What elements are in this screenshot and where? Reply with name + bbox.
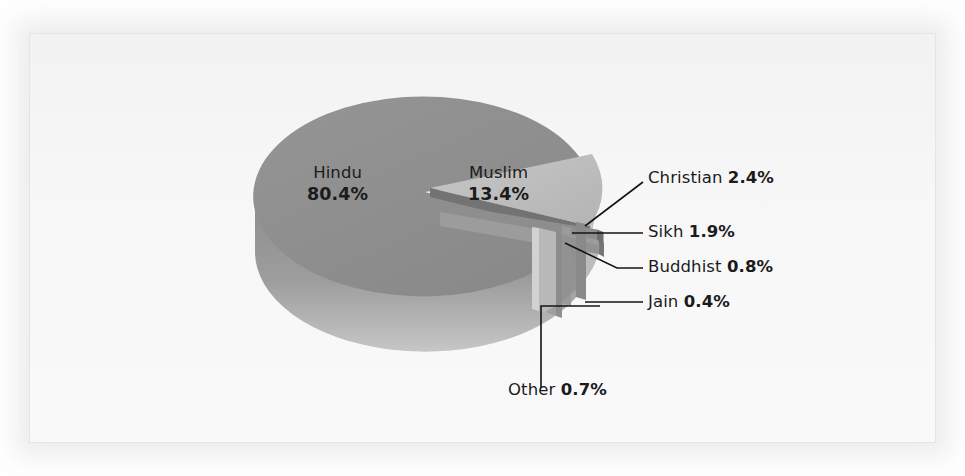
slice-label-hindu-name: Hindu [307,163,368,183]
slice-label-buddhist-name: Buddhist [648,257,722,276]
slice-label-other-name: Other [508,380,555,399]
slice-label-other: Other 0.7% [508,380,607,400]
slice-label-sikh: Sikh 1.9% [648,222,735,242]
slice-label-christian-name: Christian [648,168,722,187]
slice-label-muslim-value: 13.4% [468,184,529,204]
slice-label-buddhist-value: 0.8% [727,257,773,276]
pie-chart-graphic [0,0,965,476]
slice-label-sikh-name: Sikh [648,222,683,241]
slice-label-jain: Jain 0.4% [648,292,730,312]
slice-label-muslim-name: Muslim [468,163,529,183]
slice-label-christian: Christian 2.4% [648,168,774,188]
chart-canvas: Hindu 80.4% Muslim 13.4% Christian 2.4% … [0,0,965,476]
slice-label-sikh-value: 1.9% [689,222,735,241]
slice-label-other-value: 0.7% [561,380,607,399]
slice-label-muslim: Muslim 13.4% [468,163,529,204]
slice-label-jain-value: 0.4% [684,292,730,311]
slice-label-buddhist: Buddhist 0.8% [648,257,773,277]
slice-label-hindu: Hindu 80.4% [307,163,368,204]
slice-label-jain-name: Jain [648,292,678,311]
slice-label-hindu-value: 80.4% [307,184,368,204]
slice-label-christian-value: 2.4% [728,168,774,187]
